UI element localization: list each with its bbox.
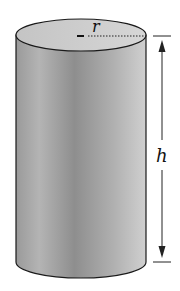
cylinder-body: [16, 35, 146, 278]
arrow-down-icon: [159, 246, 166, 258]
height-label: h: [156, 145, 168, 166]
radius-label: r: [92, 17, 101, 36]
arrow-up-icon: [159, 40, 166, 52]
cylinder-diagram: r h: [0, 0, 180, 291]
